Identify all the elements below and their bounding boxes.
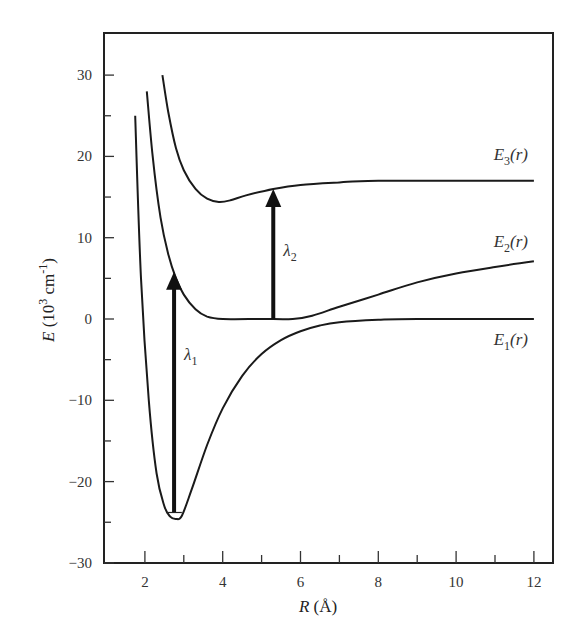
y-axis-title: E (103 cm-1) bbox=[36, 258, 58, 343]
arrow-label-lambda2: λ2 bbox=[282, 241, 296, 264]
y-tick-label: 20 bbox=[77, 148, 92, 164]
curve-label: E1(r) bbox=[493, 330, 529, 353]
curve-labels: E1(r)E2(r)E3(r)λ1λ2 bbox=[183, 145, 528, 367]
y-tick-label: 0 bbox=[85, 311, 93, 327]
y-tick-label: 10 bbox=[77, 230, 92, 246]
x-tick-label: 8 bbox=[375, 574, 383, 590]
curve-label: E2(r) bbox=[493, 232, 529, 255]
arrow-label-lambda1: λ1 bbox=[183, 345, 197, 368]
x-tick-label: 6 bbox=[297, 574, 305, 590]
plot-frame bbox=[104, 33, 553, 563]
curve-e1r bbox=[135, 116, 534, 520]
x-tick-label: 12 bbox=[526, 574, 541, 590]
curve-e3r bbox=[162, 75, 534, 202]
y-tick-label: −10 bbox=[69, 392, 92, 408]
y-tick-label: −20 bbox=[69, 474, 92, 490]
y-tick-label: −30 bbox=[69, 555, 92, 571]
x-tick-label: 2 bbox=[141, 574, 149, 590]
x-axis-title: R (Å) bbox=[298, 597, 337, 616]
arrow-head-icon bbox=[166, 272, 182, 290]
curve-label: E3(r) bbox=[493, 145, 529, 168]
curve-e2r bbox=[147, 91, 534, 319]
axis-tick-labels: 24681012−30−20−100102030 bbox=[69, 67, 542, 590]
y-tick-label: 30 bbox=[77, 67, 92, 83]
x-tick-label: 4 bbox=[219, 574, 227, 590]
potential-curves bbox=[135, 75, 534, 519]
arrow-head-icon bbox=[265, 189, 281, 207]
x-tick-label: 10 bbox=[449, 574, 464, 590]
potential-energy-chart: 24681012−30−20−100102030 E1(r)E2(r)E3(r)… bbox=[0, 0, 582, 644]
